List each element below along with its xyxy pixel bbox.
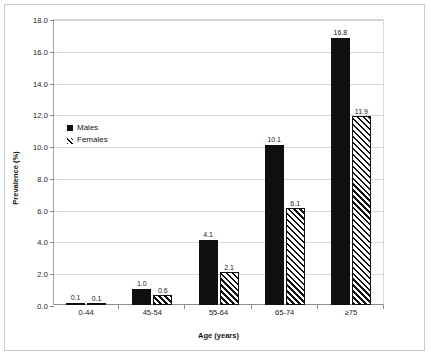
bar-males-65-74[interactable]: 10.1 xyxy=(265,145,284,305)
y-axis-tick-label: 8.0 xyxy=(37,174,54,183)
bar-males-45-54[interactable]: 1.0 xyxy=(132,289,151,305)
bar-value-label: 0.1 xyxy=(71,294,81,301)
bar-males-55-64[interactable]: 4.1 xyxy=(199,240,218,305)
x-axis-label-≥75: ≥75 xyxy=(318,308,384,317)
bar-value-label: 0.1 xyxy=(92,295,102,302)
legend-item-females[interactable]: Females xyxy=(67,134,108,146)
bar-value-label: 4.1 xyxy=(203,231,213,238)
y-axis-tick-label: 0.0 xyxy=(37,302,54,311)
y-axis-title: Prevalence (%) xyxy=(11,151,20,204)
bar-pair: 10.16.1 xyxy=(265,19,305,305)
x-axis-label-0-44: 0-44 xyxy=(53,308,119,317)
legend-label: Females xyxy=(77,134,108,146)
bar-females-≥75[interactable]: 11.9 xyxy=(352,116,371,305)
x-axis-label-65-74: 65-74 xyxy=(252,308,318,317)
y-axis-tick-label: 18.0 xyxy=(33,16,54,25)
x-axis-label-55-64: 55-64 xyxy=(185,308,251,317)
bar-pair: 16.811.9 xyxy=(331,19,371,305)
y-axis-tick-label: 12.0 xyxy=(33,111,54,120)
bar-value-label: 1.0 xyxy=(137,280,147,287)
bar-group: 0.10.1 xyxy=(53,19,119,305)
bar-males-≥75[interactable]: 16.8 xyxy=(331,38,350,305)
bar-value-label: 10.1 xyxy=(267,136,281,143)
bar-females-45-54[interactable]: 0.6 xyxy=(153,295,172,305)
legend-swatch-females-icon xyxy=(67,138,73,144)
chart-legend: MalesFemales xyxy=(67,122,108,147)
bar-group: 4.12.1 xyxy=(185,19,251,305)
bar-group: 1.00.6 xyxy=(119,19,185,305)
bar-groups: 0.10.11.00.64.12.110.16.116.811.9 xyxy=(53,19,384,305)
bar-group: 16.811.9 xyxy=(318,19,384,305)
y-axis-tick-label: 14.0 xyxy=(33,79,54,88)
bar-pair: 4.12.1 xyxy=(199,19,239,305)
bar-group: 10.16.1 xyxy=(252,19,318,305)
x-axis-labels: 0-4445-5455-6465-74≥75 xyxy=(53,308,384,317)
x-axis-title: Age (years) xyxy=(53,331,384,340)
y-axis-tick-label: 6.0 xyxy=(37,206,54,215)
bar-pair: 1.00.6 xyxy=(132,19,172,305)
y-axis-tick-label: 4.0 xyxy=(37,238,54,247)
bar-value-label: 6.1 xyxy=(290,200,300,207)
bar-pair: 0.10.1 xyxy=(66,19,106,305)
legend-item-males[interactable]: Males xyxy=(67,122,108,134)
legend-label: Males xyxy=(77,122,98,134)
bar-value-label: 2.1 xyxy=(224,264,234,271)
y-axis-tick-label: 16.0 xyxy=(33,47,54,56)
bar-females-65-74[interactable]: 6.1 xyxy=(286,208,305,305)
bar-value-label: 11.9 xyxy=(355,108,368,115)
y-axis-tick-label: 2.0 xyxy=(37,270,54,279)
legend-swatch-males-icon xyxy=(67,125,73,131)
bar-females-55-64[interactable]: 2.1 xyxy=(220,272,239,305)
figure-frame: Prevalence (%) 0.02.04.06.08.010.012.014… xyxy=(4,4,425,351)
bar-value-label: 16.8 xyxy=(334,29,348,36)
y-axis-tick-label: 10.0 xyxy=(33,143,54,152)
x-axis-label-45-54: 45-54 xyxy=(119,308,185,317)
bar-value-label: 0.6 xyxy=(158,287,168,294)
